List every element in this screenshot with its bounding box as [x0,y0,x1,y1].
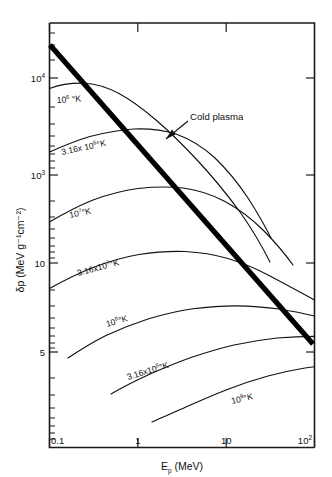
chart-figure: Cold plasma 104 103 10 5 0.1 1 10 102 10… [0,0,332,477]
ytick-label-5: 5 [40,347,45,358]
x-axis-title: Ep (MeV) [161,460,203,475]
y-axis-ticks [50,33,315,439]
curve-1e9 [152,367,315,422]
cold-plasma-label: Cold plasma [190,111,244,122]
curve-label-316e7: 3.16x107°K [76,257,120,278]
ytick-minors [50,33,56,439]
xtick-label-10: 10 [221,435,232,446]
curve-1e8 [68,306,315,358]
ytick-label-1e3: 103 [31,169,46,181]
curve-316e7 [50,251,315,300]
curve-label-316e8: 3.16x108°K [126,359,170,382]
curve-label-1e8: 108°K [105,313,129,329]
stopping-power-plot: Cold plasma 104 103 10 5 0.1 1 10 102 10… [0,0,332,477]
xtick-label-1: 1 [135,435,140,446]
curve-label-316e6: 3.16x 106°K [60,137,107,157]
ytick-label-1e2: 10 [34,258,45,269]
xtick-label-100: 102 [298,434,313,446]
curve-labels: 106 °K 3.16x 106°K 107°K 3.16x107°K 108°… [56,93,254,406]
data-curves [50,83,315,422]
ytick-label-1e4: 104 [31,72,46,84]
cold-plasma-line [50,45,313,344]
xtick-label-0.1: 0.1 [51,435,64,446]
y-axis-title: δp (MeV g⁻¹cm⁻²) [14,208,26,293]
curve-label-1e6: 106 °K [56,93,81,105]
curve-label-1e9: 109°K [230,391,254,406]
curve-316e8 [111,336,315,394]
curve-1e7 [50,187,294,265]
x-tick-labels: 0.1 1 10 102 [51,434,312,446]
curve-label-1e7: 107°K [68,205,92,220]
cold-plasma-arrow [166,121,188,139]
y-tick-labels: 104 103 10 5 [31,72,46,358]
